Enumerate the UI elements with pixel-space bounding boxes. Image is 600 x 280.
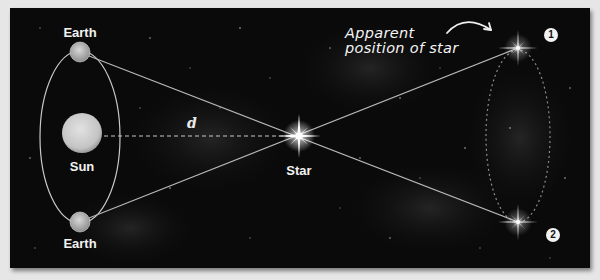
position-2-badge: 2 [546,228,560,242]
earth-top [70,42,90,62]
apparent-position-note: Apparent position of star [345,26,459,56]
diagram-canvas [10,8,590,268]
star-label: Star [286,164,311,177]
earth-bottom-label: Earth [63,237,96,250]
sun [62,113,102,153]
sun-label: Sun [70,160,95,173]
earth-bottom [70,212,90,232]
earth-top-label: Earth [63,26,96,39]
apparent-note-line-1: Apparent [345,26,459,41]
apparent-note-line-2: position of star [345,41,459,56]
distance-label: d [187,116,197,130]
parallax-diagram: Earth Sun Earth Star d Apparent position… [10,8,590,268]
position-1-badge: 1 [544,28,558,42]
